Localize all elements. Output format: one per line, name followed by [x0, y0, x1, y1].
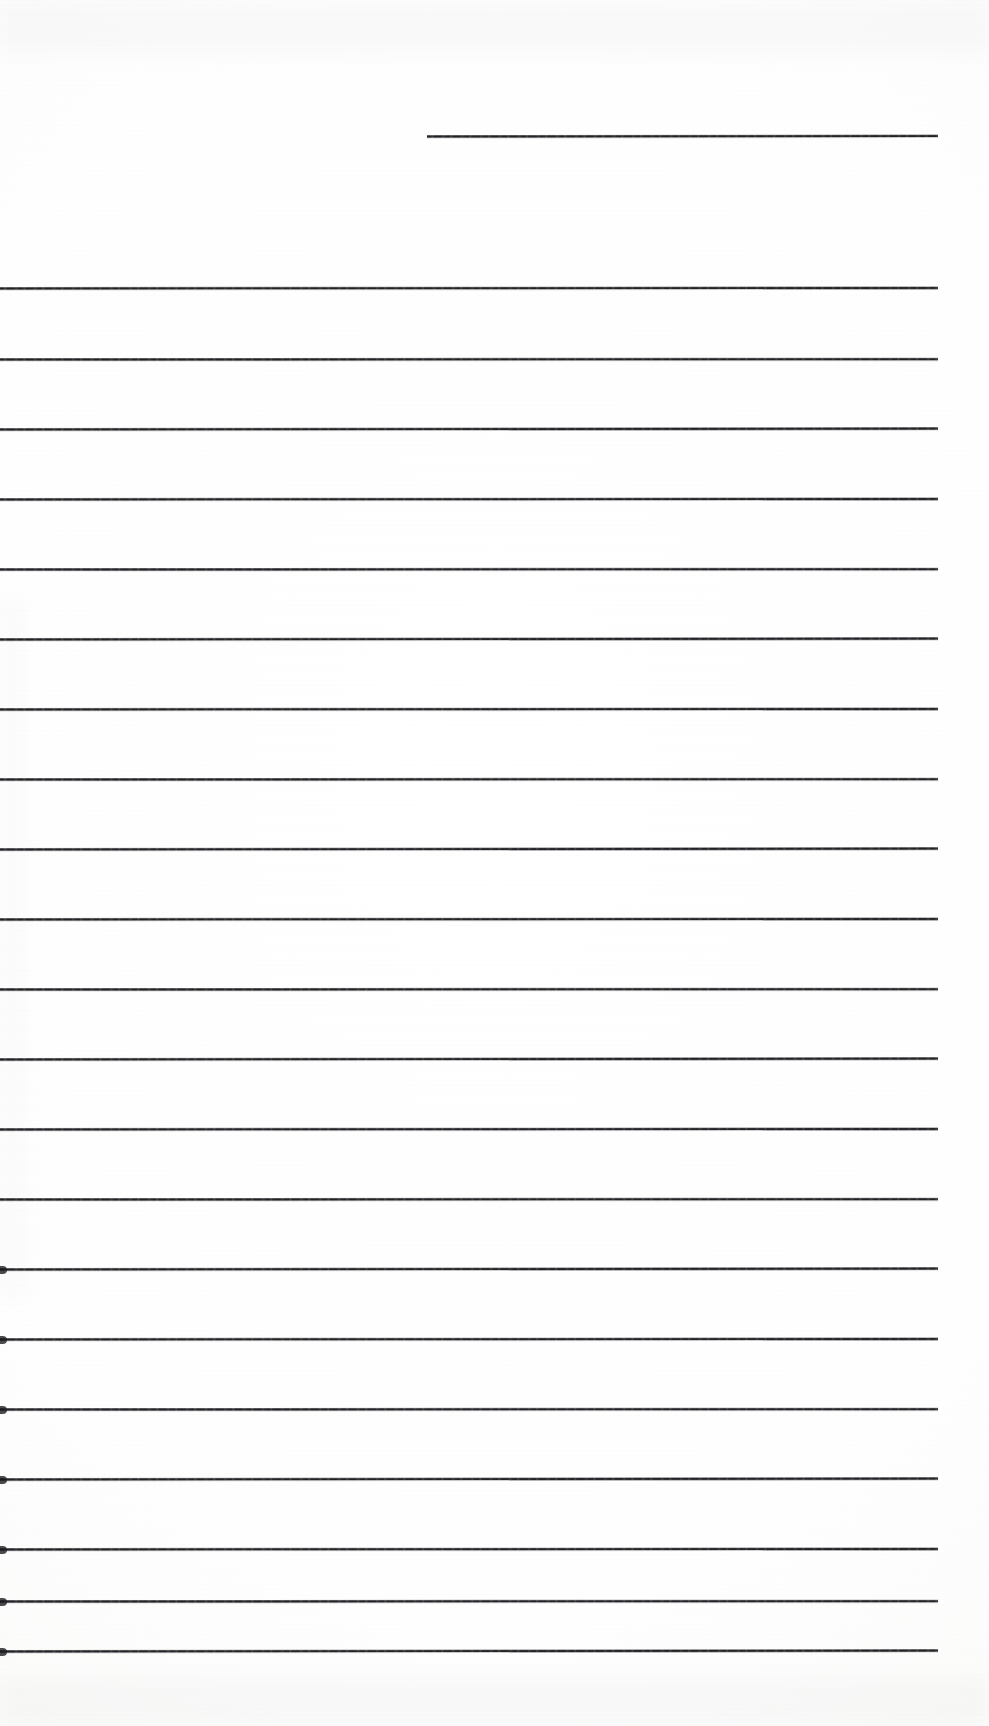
ruled-line — [0, 1547, 938, 1551]
ruled-line — [0, 497, 938, 501]
ruled-line — [0, 1198, 938, 1201]
scanned-page — [0, 0, 989, 1726]
ruled-line — [0, 917, 938, 921]
ruled-line — [0, 778, 938, 781]
ruled-line — [427, 135, 938, 138]
ruled-line — [0, 1600, 938, 1603]
ruled-line — [0, 1408, 938, 1411]
ruled-line — [0, 988, 938, 991]
ruled-line — [0, 568, 938, 571]
ruled-line — [0, 358, 938, 361]
ruled-line — [0, 1127, 938, 1131]
ruled-line — [0, 707, 938, 711]
ruled-line — [0, 286, 938, 290]
paper-surface — [0, 0, 989, 1726]
ruled-line — [0, 1337, 938, 1341]
